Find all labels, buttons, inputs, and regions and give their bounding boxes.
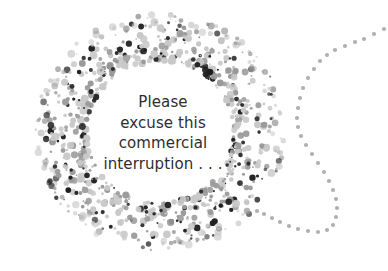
ring-dot bbox=[222, 180, 225, 183]
ring-dot bbox=[89, 68, 93, 72]
ring-dot bbox=[91, 178, 93, 180]
ring-dot bbox=[138, 209, 141, 212]
ring-dot bbox=[278, 110, 282, 114]
ring-dot bbox=[223, 49, 228, 54]
ring-dot bbox=[246, 162, 250, 166]
ring-dot bbox=[245, 145, 251, 151]
ring-dot bbox=[222, 195, 226, 199]
ring-dot bbox=[240, 103, 244, 107]
ring-dot bbox=[59, 202, 62, 205]
ring-dot bbox=[79, 212, 87, 220]
ring-dot bbox=[164, 38, 166, 40]
ring-dot bbox=[63, 153, 70, 160]
trail-dot bbox=[304, 143, 308, 147]
ring-dot bbox=[273, 146, 280, 153]
ring-dot bbox=[144, 205, 148, 209]
ring-dot bbox=[229, 177, 233, 181]
ring-dot bbox=[232, 56, 237, 61]
ring-dot bbox=[86, 117, 88, 119]
ring-dot bbox=[64, 181, 69, 186]
trail-dot bbox=[334, 197, 338, 201]
ring-dot bbox=[227, 46, 230, 49]
ring-dot bbox=[77, 160, 83, 166]
ring-dot bbox=[185, 28, 187, 30]
ring-dot bbox=[192, 50, 197, 55]
ring-dot bbox=[199, 190, 203, 194]
ring-dot bbox=[187, 216, 189, 218]
ring-dot bbox=[241, 51, 243, 53]
ring-dot bbox=[195, 237, 199, 241]
ring-dot bbox=[224, 228, 226, 230]
ring-dot bbox=[140, 223, 144, 227]
ring-dot bbox=[169, 241, 173, 245]
ring-dot bbox=[148, 11, 155, 18]
message-line: commercial bbox=[93, 133, 233, 154]
ring-dot bbox=[105, 185, 111, 191]
trail-dot bbox=[296, 125, 300, 129]
ring-dot bbox=[71, 61, 77, 67]
ring-dot bbox=[190, 237, 193, 240]
ring-dot bbox=[255, 56, 257, 58]
ring-dot bbox=[104, 72, 106, 74]
ring-dot bbox=[268, 106, 273, 111]
ring-dot bbox=[122, 192, 129, 199]
ring-dot bbox=[208, 55, 211, 58]
ring-dot bbox=[170, 18, 172, 20]
ring-dot bbox=[214, 233, 222, 241]
ring-dot bbox=[87, 202, 89, 204]
ring-dot bbox=[262, 89, 267, 94]
ring-dot bbox=[82, 160, 86, 164]
ring-dot bbox=[124, 218, 128, 222]
ring-dot bbox=[237, 132, 244, 139]
ring-dot bbox=[85, 223, 87, 225]
ring-dot bbox=[159, 39, 162, 42]
ring-dot bbox=[135, 38, 137, 40]
ring-dot bbox=[262, 103, 265, 106]
ring-dot bbox=[173, 15, 176, 18]
ring-dot bbox=[88, 57, 92, 61]
ring-dot bbox=[194, 29, 199, 34]
ring-dot bbox=[55, 66, 61, 72]
trail-dot bbox=[278, 220, 282, 224]
ring-dot bbox=[250, 107, 253, 110]
ring-dot bbox=[61, 79, 68, 86]
ring-dot bbox=[34, 128, 37, 131]
ring-dot bbox=[250, 75, 252, 77]
ring-dot bbox=[222, 82, 227, 87]
ring-dot bbox=[264, 144, 270, 150]
ring-dot bbox=[74, 91, 78, 95]
ring-dot bbox=[196, 41, 201, 46]
ring-dot bbox=[199, 221, 202, 224]
ring-dot bbox=[208, 31, 213, 36]
ring-dot bbox=[188, 22, 194, 28]
ring-dot bbox=[50, 151, 52, 153]
ring-dot bbox=[255, 162, 261, 168]
trail-dot bbox=[306, 76, 310, 80]
ring-dot bbox=[165, 202, 171, 208]
ring-dot bbox=[234, 165, 236, 167]
ring-dot bbox=[233, 68, 239, 74]
ring-dot bbox=[215, 223, 222, 230]
ring-dot bbox=[74, 41, 78, 45]
ring-dot bbox=[145, 210, 149, 214]
ring-dot bbox=[199, 55, 201, 57]
ring-dot bbox=[213, 183, 219, 189]
ring-dot bbox=[217, 69, 219, 71]
trail-dot bbox=[362, 37, 366, 41]
ring-dot bbox=[255, 102, 261, 108]
trail-dot bbox=[343, 44, 347, 48]
ring-dot bbox=[61, 144, 66, 149]
ring-dot bbox=[66, 97, 70, 101]
trail-dot bbox=[287, 224, 291, 228]
ring-dot bbox=[101, 185, 105, 189]
ring-dot bbox=[86, 109, 92, 115]
trail-dot bbox=[353, 40, 357, 44]
ring-dot bbox=[171, 51, 173, 53]
ring-dot bbox=[44, 112, 50, 118]
ring-dot bbox=[72, 201, 79, 208]
ring-dot bbox=[252, 166, 254, 168]
ring-dot bbox=[98, 57, 102, 61]
ring-dot bbox=[91, 44, 94, 47]
ring-dot bbox=[96, 199, 100, 203]
ring-dot bbox=[211, 47, 213, 49]
